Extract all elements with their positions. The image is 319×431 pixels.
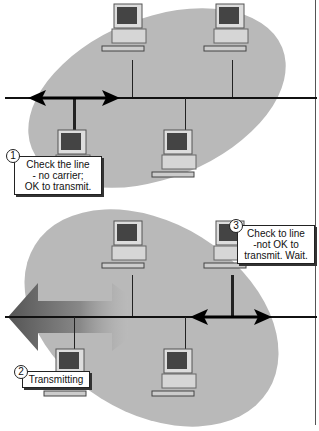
callout-step-3: Check to line -not OK to transmit. Wait. — [237, 225, 315, 264]
callout-line: - no carrier; — [18, 170, 98, 181]
step-number-badge: 2 — [14, 365, 28, 379]
computer-icon — [100, 2, 156, 58]
panel-carrier-busy: Check to line -not OK to transmit. Wait.… — [0, 205, 319, 425]
callout-line: Transmitting — [26, 374, 86, 385]
computer-icon — [100, 219, 156, 275]
callout-step-1: Check the line - no carrier; OK to trans… — [14, 156, 102, 195]
callout-line: -not OK to — [241, 239, 311, 250]
computer-icon — [202, 2, 258, 58]
callout-line: Check to line — [241, 228, 311, 239]
callout-line: transmit. Wait. — [241, 250, 311, 261]
step-number-badge: 1 — [6, 149, 20, 163]
step-number-badge: 3 — [229, 219, 243, 233]
computer-icon — [150, 128, 206, 184]
callout-line: Check the line — [18, 159, 98, 170]
callout-step-2: Transmitting — [22, 371, 90, 388]
computer-icon — [150, 347, 206, 403]
callout-line: OK to transmit. — [18, 181, 98, 192]
panel-carrier-free: Check the line - no carrier; OK to trans… — [0, 0, 319, 205]
